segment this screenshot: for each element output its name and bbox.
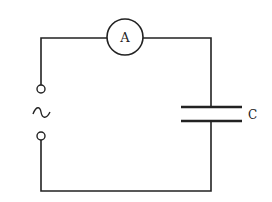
wire-top-right [143, 38, 211, 107]
ammeter: A [107, 19, 143, 55]
circuit-diagram: A C [0, 0, 272, 202]
ac-wave-icon [33, 108, 50, 118]
source-terminal-bottom [37, 132, 45, 140]
capacitor: C [181, 107, 257, 122]
wire-right-bottom [41, 121, 211, 191]
ac-source [33, 85, 50, 140]
source-terminal-top [37, 85, 45, 93]
capacitor-label: C [248, 108, 257, 122]
ammeter-label: A [119, 30, 130, 45]
wire-left-top [41, 38, 107, 85]
